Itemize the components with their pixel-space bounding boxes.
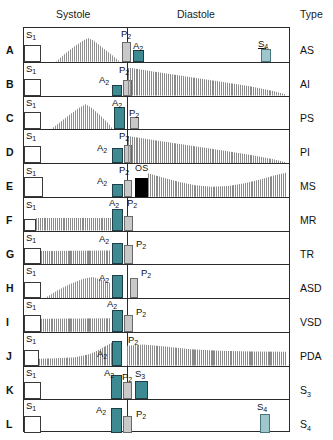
s4-label: S4 (257, 402, 267, 412)
row-ms: S1 A2 P2 OS (23, 163, 290, 197)
p2-label: P2 (129, 108, 139, 118)
row-type-d: PI (300, 146, 310, 158)
s1-label: S1 (26, 200, 36, 210)
p2-bar (122, 42, 131, 62)
p2-label: P2 (122, 372, 132, 382)
a2-bar (112, 184, 123, 197)
p2-bar (124, 315, 133, 332)
row-letter-b: B (6, 78, 14, 90)
a2-label: A2 (133, 41, 143, 51)
s1-bar (24, 146, 41, 163)
p2-label: P2 (121, 29, 131, 39)
row-type-l: S4 (300, 418, 311, 432)
a2-bar (112, 341, 122, 366)
row-letter-a: A (6, 44, 14, 56)
row-letter-k: K (6, 384, 14, 396)
p2-label: P2 (136, 307, 146, 317)
murmur-decrescendo (128, 68, 286, 96)
s1-bar (24, 315, 41, 332)
p2-label: P2 (141, 268, 151, 278)
p2-label: P2 (128, 335, 138, 345)
s1-label: S1 (26, 166, 36, 176)
a2-label: A2 (99, 234, 109, 244)
s1-bar (24, 112, 41, 129)
row-as: S1 P2 A2 S4 (23, 28, 290, 62)
header-type: Type (300, 8, 323, 20)
row-letter-h: H (6, 282, 14, 294)
row-letter-c: C (6, 112, 14, 124)
s1-label: S1 (26, 368, 36, 378)
row-letter-j: J (6, 350, 12, 362)
s1-bar (24, 79, 41, 96)
row-letter-l: L (6, 418, 12, 430)
s1-bar (24, 350, 39, 366)
murmur-holosystolic (41, 250, 111, 264)
row-type-b: AI (300, 78, 310, 90)
s4-bar (261, 49, 271, 62)
murmur-continuous-diastolic (127, 344, 286, 366)
row-type-h: ASD (300, 282, 322, 294)
s1-label: S1 (26, 131, 36, 141)
a2-label: A2 (107, 299, 117, 309)
row-type-f: MR (300, 214, 316, 226)
p2-bar (124, 180, 132, 197)
row-pi: S1 A2 P2 (23, 129, 290, 163)
a2-bar (112, 243, 123, 264)
s4-bar (260, 414, 270, 433)
opening-snap-label: OS (135, 164, 148, 173)
p2-label: P2 (136, 409, 146, 419)
header-diastole: Diastole (177, 8, 215, 20)
s1-label: S1 (26, 30, 36, 40)
a2-bar (112, 209, 123, 231)
murmur-diamond (51, 103, 113, 129)
row-type-e: MS (300, 180, 316, 192)
s1-label: S1 (26, 401, 36, 411)
s3-bar (135, 381, 148, 399)
a2-label: A2 (112, 98, 122, 108)
row-mr: S1 A2 P2 (23, 197, 290, 231)
murmur-diamond (56, 37, 120, 62)
row-tr: S1 A2 P2 (23, 231, 290, 265)
a2-label: A2 (109, 198, 119, 208)
row-letter-d: D (6, 146, 14, 158)
row-type-c: PS (300, 112, 314, 124)
s1-label: S1 (26, 334, 36, 344)
a2-label: A2 (97, 176, 107, 186)
s1-label: S1 (26, 233, 36, 243)
a2-bar (114, 107, 125, 129)
a2-bar (112, 85, 122, 96)
row-ai: S1 A2 P2 (23, 62, 290, 96)
murmur-decrescendo (128, 136, 286, 163)
p2-label: P2 (119, 165, 129, 175)
row-type-k: S3 (300, 384, 311, 398)
a2-label: A2 (97, 143, 107, 153)
a2-label: A2 (97, 349, 107, 359)
header-systole: Systole (56, 8, 90, 20)
s1-label: S1 (26, 64, 36, 74)
s4-label: S4 (258, 39, 268, 49)
opening-snap-bar (135, 178, 148, 197)
row-letter-f: F (6, 214, 12, 226)
s1-bar (24, 416, 41, 433)
p2-label: P2 (127, 198, 137, 208)
s1-bar (24, 177, 43, 197)
p2-bar (124, 216, 133, 231)
auscultation-diagram: Systole Diastole Type A AS S1 P2 A2 S4 B… (0, 0, 333, 440)
murmur-holosystolic (41, 318, 111, 332)
row-letter-e: E (6, 180, 13, 192)
p2-bar (123, 416, 132, 433)
s1-bar (24, 382, 41, 399)
a2-label: A2 (99, 75, 109, 85)
a2-bar (111, 408, 122, 433)
p2-label: P2 (119, 131, 129, 141)
a2-bar (112, 148, 123, 163)
murmur-rumble (148, 172, 286, 197)
p2-bar (124, 245, 133, 264)
s1-bar (24, 282, 41, 298)
row-ps: S1 A2 P2 (23, 96, 290, 130)
a2-bar (112, 275, 123, 298)
row-asd: S1 A2 P2 (23, 264, 290, 298)
s1-bar (24, 248, 41, 264)
s1-bar (24, 219, 36, 231)
row-vsd: S1 A2 P2 (23, 298, 290, 332)
